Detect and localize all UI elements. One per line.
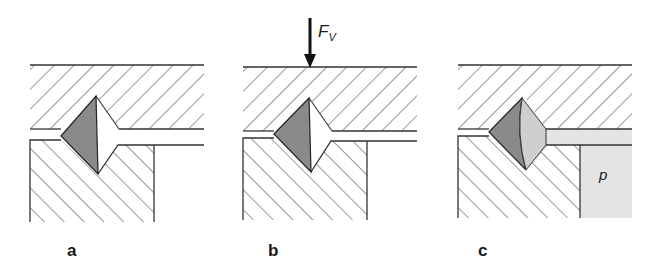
panel-label-b: b [268, 241, 278, 261]
panel-label-c: c [478, 241, 487, 261]
panel-c [458, 65, 632, 218]
panel-a [30, 65, 204, 222]
force-label: FV [318, 22, 336, 43]
panel-b [243, 18, 417, 220]
panel-label-a: a [67, 241, 76, 261]
upper-block [30, 65, 204, 129]
pressure-label: p [599, 166, 607, 183]
force-arrow [304, 18, 316, 68]
